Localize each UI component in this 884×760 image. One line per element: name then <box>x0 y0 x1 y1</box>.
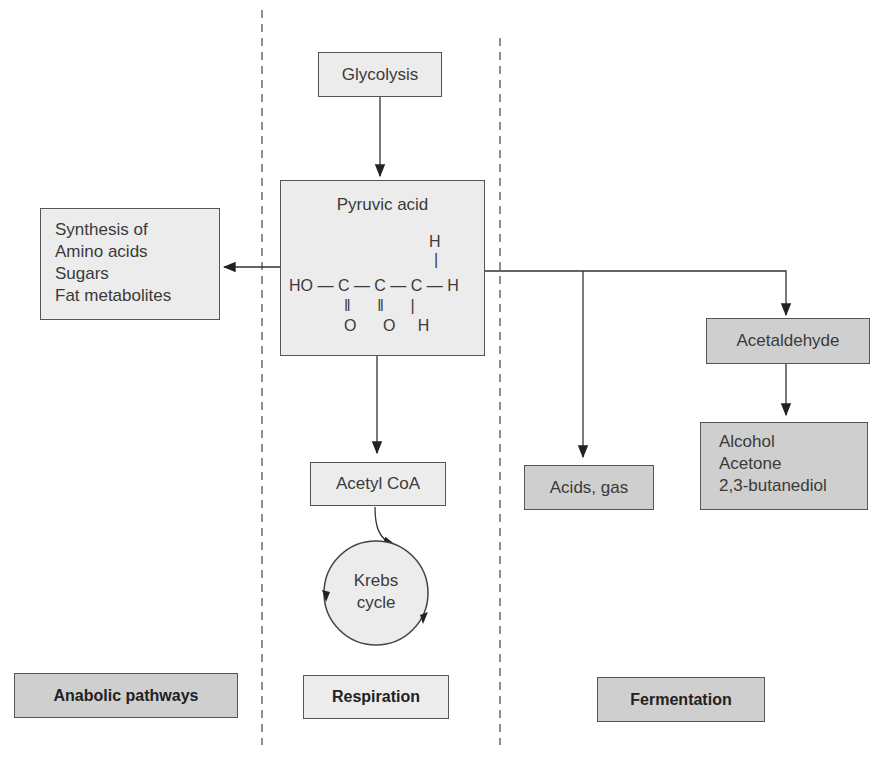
glycolysis-node: Glycolysis <box>318 52 442 97</box>
synthesis-line: Fat metabolites <box>55 285 205 307</box>
formula-main: HO — C — C — C — H <box>289 277 459 295</box>
acids-gas-node: Acids, gas <box>524 465 654 510</box>
product-line: Acetone <box>719 453 849 475</box>
respiration-label: Respiration <box>303 675 449 719</box>
synthesis-line: Amino acids <box>55 241 205 263</box>
krebs-line: Krebs <box>330 570 422 592</box>
synthesis-line: Synthesis of <box>55 219 205 241</box>
acetyl-coa-node: Acetyl CoA <box>310 462 446 506</box>
anabolic-text: Anabolic pathways <box>54 687 199 705</box>
krebs-cycle-label: Krebs cycle <box>330 570 422 614</box>
product-line: Alcohol <box>719 431 849 453</box>
acetaldehyde-label: Acetaldehyde <box>736 331 839 351</box>
acetyl-coa-label: Acetyl CoA <box>336 474 420 494</box>
bond-top: | <box>434 251 438 269</box>
product-line: 2,3-butanediol <box>719 475 849 497</box>
krebs-line: cycle <box>330 592 422 614</box>
pyruvic-acid-node: Pyruvic acid H | HO — C — C — C — H ‖ ‖ … <box>280 180 485 356</box>
formula-top-h: H <box>429 233 441 251</box>
pyruvic-acid-label: Pyruvic acid <box>281 195 484 215</box>
formula-bonds: ‖ ‖ | <box>344 297 415 315</box>
fermentation-text: Fermentation <box>630 691 731 709</box>
acetaldehyde-node: Acetaldehyde <box>706 318 870 364</box>
glycolysis-label: Glycolysis <box>342 65 419 85</box>
synthesis-node: Synthesis of Amino acids Sugars Fat meta… <box>40 208 220 320</box>
formula-bottom: O O H <box>344 317 429 335</box>
synthesis-line: Sugars <box>55 263 205 285</box>
fermentation-products-node: Alcohol Acetone 2,3-butanediol <box>700 422 868 510</box>
anabolic-pathways-label: Anabolic pathways <box>14 673 238 718</box>
respiration-text: Respiration <box>332 688 420 706</box>
acids-gas-label: Acids, gas <box>550 478 628 498</box>
fermentation-label: Fermentation <box>597 677 765 722</box>
connector-lines <box>0 0 884 760</box>
